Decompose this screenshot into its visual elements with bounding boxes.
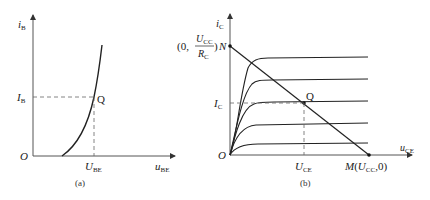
caption-b: (b) xyxy=(300,178,311,188)
bjt-characteristics-diagram: iB IB Q O UBE uBE (a) iC (0, UCC RC xyxy=(0,0,430,200)
y-axis-label-b: iC xyxy=(216,17,224,31)
svg-text:): ) xyxy=(214,40,218,53)
origin-label-b: O xyxy=(218,149,226,161)
ube-label: UBE xyxy=(85,160,102,174)
output-curve-5 xyxy=(230,143,368,155)
x-axis-label-b: uCE xyxy=(400,142,414,155)
q-point-label-a: Q xyxy=(97,93,105,105)
dc-load-line xyxy=(230,46,369,155)
ib-label: IB xyxy=(16,91,26,105)
input-curve xyxy=(62,45,102,156)
q-point-label-b: Q xyxy=(306,90,314,102)
uce-label: UCE xyxy=(295,160,312,174)
n-point-marker xyxy=(228,44,232,48)
x-axis-label-a: uBE xyxy=(155,160,169,174)
ic-label: IC xyxy=(213,97,223,111)
figure-b-output-characteristic: iC (0, UCC RC ) N IC Q O UCE M(UCC,0) uC… xyxy=(177,14,414,188)
svg-text:N: N xyxy=(218,40,227,52)
caption-a: (a) xyxy=(75,178,85,188)
m-point-label: M(UCC,0) xyxy=(344,160,387,174)
y-axis-label-a: iB xyxy=(18,18,26,32)
figure-a-input-characteristic: iB IB Q O UBE uBE (a) xyxy=(16,15,175,188)
output-curve-3 xyxy=(230,101,368,155)
svg-text:RC: RC xyxy=(197,48,209,61)
origin-label-a: O xyxy=(20,150,28,162)
m-point-marker xyxy=(367,153,371,157)
svg-text:UCC: UCC xyxy=(196,33,213,46)
svg-text:(0,: (0, xyxy=(177,40,189,53)
n-point-label: (0, UCC RC ) N xyxy=(177,33,227,61)
output-curve-4 xyxy=(230,123,368,155)
